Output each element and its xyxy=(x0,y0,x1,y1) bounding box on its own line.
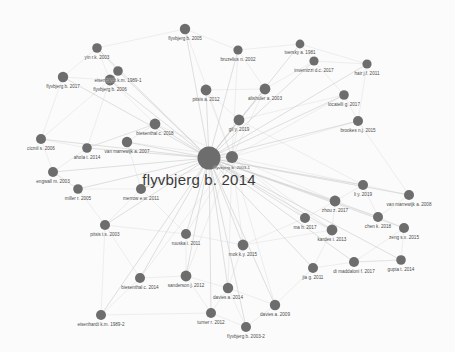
graph-node[interactable] xyxy=(353,116,363,126)
graph-edge xyxy=(186,276,228,288)
graph-node[interactable] xyxy=(113,66,123,76)
graph-node[interactable] xyxy=(226,151,238,163)
graph-node[interactable] xyxy=(404,190,414,200)
graph-edge xyxy=(78,189,105,225)
graph-node[interactable] xyxy=(181,271,192,282)
graph-edge xyxy=(209,50,238,158)
graph-node[interactable] xyxy=(181,229,191,239)
graph-node[interactable] xyxy=(362,59,371,68)
graph-edge xyxy=(105,158,209,225)
graph-node[interactable] xyxy=(234,115,245,126)
graph-edge xyxy=(246,305,275,327)
graph-node[interactable] xyxy=(260,84,271,95)
graph-node[interactable] xyxy=(373,212,383,222)
graph-node[interactable] xyxy=(198,147,221,170)
graph-edge xyxy=(243,230,332,245)
graph-edge xyxy=(101,278,140,315)
graph-node[interactable] xyxy=(180,24,190,34)
graph-edge xyxy=(53,148,87,172)
graph-edge xyxy=(186,158,209,234)
graph-node[interactable] xyxy=(233,45,242,54)
graph-node[interactable] xyxy=(206,308,216,318)
graph-edge xyxy=(209,61,314,158)
graph-edge xyxy=(105,225,186,234)
graph-node[interactable] xyxy=(296,40,305,49)
graph-edge xyxy=(354,260,401,262)
graph-node[interactable] xyxy=(223,283,233,293)
graph-edge xyxy=(186,276,211,313)
graph-edge xyxy=(228,288,275,305)
graph-node[interactable] xyxy=(201,85,212,96)
graph-edge xyxy=(186,234,243,245)
graph-edge xyxy=(313,262,354,268)
network-graph-canvas: flyvbjerg b. 2003-1flyvbjerg b. 2005yin … xyxy=(0,0,455,352)
graph-edge xyxy=(206,89,265,90)
graph-node[interactable] xyxy=(358,180,368,190)
graph-edge xyxy=(378,195,409,217)
graph-edge xyxy=(314,61,344,95)
graph-edge xyxy=(243,218,305,245)
graph-edge xyxy=(239,95,344,120)
graph-edge xyxy=(105,189,141,225)
graph-node[interactable] xyxy=(82,143,92,153)
central-node-label: flyvbjerg b. 2014 xyxy=(142,171,255,188)
graph-edge xyxy=(155,124,232,157)
graph-edge xyxy=(228,245,243,288)
graph-node[interactable] xyxy=(300,213,310,223)
graph-edge xyxy=(41,139,53,172)
graph-edge xyxy=(238,44,300,50)
graph-edge xyxy=(110,80,155,124)
graph-edge xyxy=(354,228,404,262)
graph-edge xyxy=(141,189,186,234)
graph-node[interactable] xyxy=(122,137,132,147)
graph-node[interactable] xyxy=(135,273,145,283)
graph-node[interactable] xyxy=(150,119,161,130)
graph-node[interactable] xyxy=(58,72,68,82)
graph-node[interactable] xyxy=(396,255,406,265)
graph-edge xyxy=(63,48,97,77)
graph-edge xyxy=(101,313,211,315)
graph-edge xyxy=(140,276,186,278)
graph-node[interactable] xyxy=(270,300,280,310)
graph-edge xyxy=(313,230,332,268)
graph-edge xyxy=(363,185,409,195)
graph-node[interactable] xyxy=(48,167,58,177)
graph-node[interactable] xyxy=(399,223,409,233)
graph-node[interactable] xyxy=(327,225,338,236)
graph-edge xyxy=(275,268,313,305)
graph-node[interactable] xyxy=(238,240,249,251)
graph-edge xyxy=(185,29,238,50)
graph-edge xyxy=(238,50,265,89)
graph-edge xyxy=(265,61,314,89)
graph-edge xyxy=(209,95,344,158)
graph-edge xyxy=(101,225,105,315)
graph-node[interactable] xyxy=(36,134,46,144)
graph-node[interactable] xyxy=(100,220,110,230)
graph-node[interactable] xyxy=(349,257,359,267)
graph-node[interactable] xyxy=(105,75,116,86)
graph-node[interactable] xyxy=(73,184,83,194)
graph-node[interactable] xyxy=(308,263,318,273)
graph-edge xyxy=(63,77,110,80)
graph-edge xyxy=(228,288,246,327)
graph-node[interactable] xyxy=(92,43,102,53)
graph-node[interactable] xyxy=(96,310,106,320)
graph-edge xyxy=(87,80,110,148)
graph-node[interactable] xyxy=(241,322,251,332)
graph-edge xyxy=(97,29,185,48)
graph-node[interactable] xyxy=(339,90,349,100)
graph-edge xyxy=(358,64,367,121)
graph-node[interactable] xyxy=(309,56,318,65)
graph-edge xyxy=(206,90,239,120)
graph-edge xyxy=(232,95,344,157)
graph-node[interactable] xyxy=(330,196,341,207)
graph-edge xyxy=(87,148,209,158)
graph-edge xyxy=(105,225,140,278)
